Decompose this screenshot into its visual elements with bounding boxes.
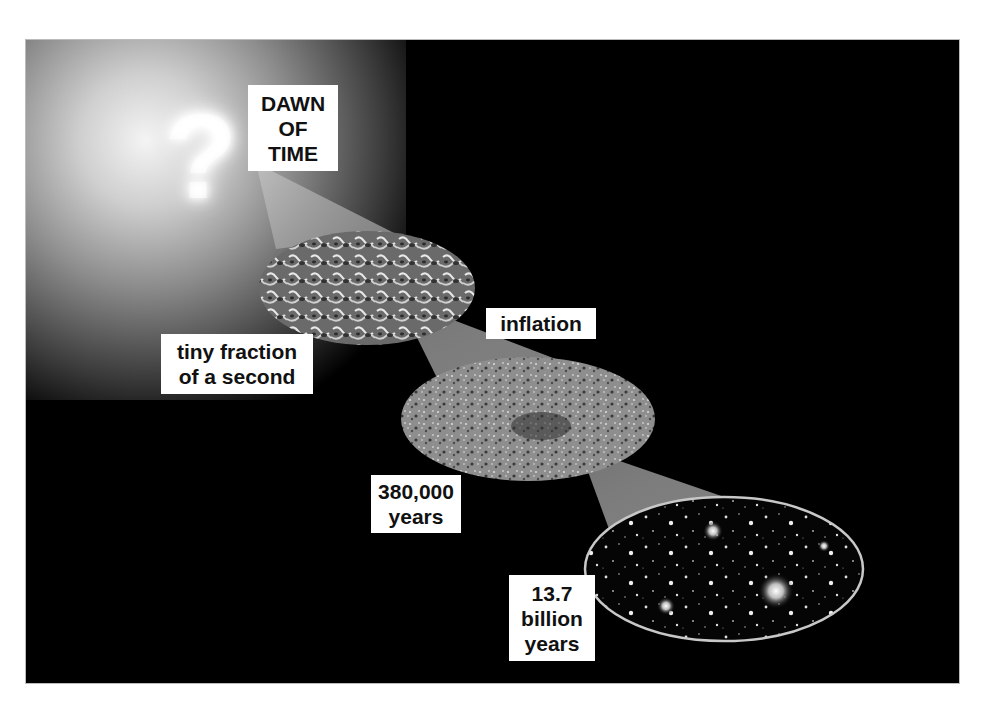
label-dawn-of-time: DAWN OF TIME: [248, 85, 338, 171]
label-tiny-fraction: tiny fraction of a second: [161, 334, 313, 394]
deep-field-image: [585, 497, 863, 641]
diagram-panel: ?: [25, 39, 960, 684]
label-380000-years: 380,000 years: [371, 475, 461, 533]
label-inflation: inflation: [486, 308, 596, 339]
label-13-7-billion-years: 13.7 billion years: [509, 575, 595, 661]
quantum-foam-image: [259, 231, 475, 345]
